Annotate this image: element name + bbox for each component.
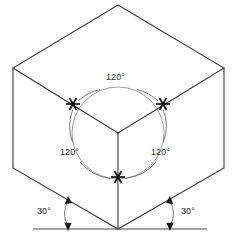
- base-angle-right-arrow: [166, 196, 174, 231]
- angle-label-right: 120°: [151, 148, 170, 157]
- isometric-cube-diagram: 120° 120° 120° 30° 30°: [0, 0, 234, 239]
- diagram-canvas: [0, 0, 234, 239]
- angle-label-top: 120°: [106, 73, 125, 82]
- base-angle-label-right: 30°: [181, 207, 195, 216]
- base-angle-right-arrowhead-down: [166, 222, 173, 231]
- base-angle-label-left: 30°: [37, 207, 51, 216]
- base-angle-left-arrowhead-down: [64, 222, 71, 231]
- angle-label-left: 120°: [60, 148, 79, 157]
- base-angle-left-arrow: [64, 196, 72, 231]
